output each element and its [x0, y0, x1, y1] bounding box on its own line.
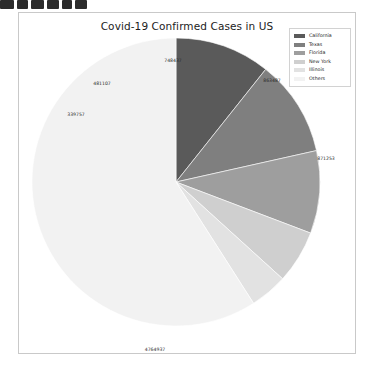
chart-panel: Covid-19 Confirmed Cases in US 863487871… [18, 12, 356, 354]
artifact-block-5 [75, 0, 87, 9]
legend-label: Florida [309, 49, 325, 57]
legend-label: Texas [309, 41, 322, 49]
pie-data-label-others: 4764937 [145, 347, 165, 352]
legend-swatch-icon [294, 68, 305, 72]
legend-swatch-icon [294, 51, 305, 55]
pie-data-label-california: 863487 [263, 78, 281, 83]
pie-data-label-texas: 871253 [317, 156, 335, 161]
artifact-block-0 [0, 0, 14, 9]
pie-data-label-florida: 748437 [164, 58, 182, 63]
legend-label: New York [309, 58, 331, 66]
pie-data-label-new-york: 481107 [93, 81, 111, 86]
legend-item-illinois[interactable]: Illinois [294, 66, 347, 74]
artifact-block-1 [17, 0, 28, 9]
legend-swatch-icon [294, 43, 305, 47]
legend-item-texas[interactable]: Texas [294, 41, 347, 49]
artifact-block-4 [62, 0, 72, 9]
legend-item-california[interactable]: California [294, 32, 347, 40]
legend-label: Others [309, 75, 325, 83]
legend-item-others[interactable]: Others [294, 75, 347, 83]
legend-item-florida[interactable]: Florida [294, 49, 347, 57]
legend-item-new-york[interactable]: New York [294, 58, 347, 66]
page-top-artifact [0, 0, 96, 9]
artifact-block-3 [47, 0, 59, 9]
pie-data-label-illinois: 339757 [67, 112, 85, 117]
legend-swatch-icon [294, 60, 305, 64]
legend-swatch-icon [294, 34, 305, 38]
legend-label: Illinois [309, 66, 324, 74]
artifact-block-2 [31, 0, 44, 9]
chart-legend: CaliforniaTexasFloridaNew YorkIllinoisOt… [289, 28, 351, 87]
legend-swatch-icon [294, 77, 305, 81]
legend-label: California [309, 32, 332, 40]
